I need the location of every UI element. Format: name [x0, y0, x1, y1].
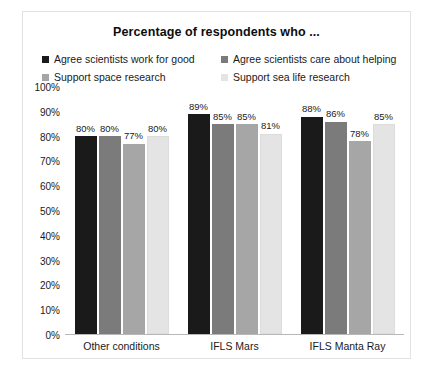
y-axis-tick-label: 100% [34, 82, 60, 93]
y-axis-tick-label: 90% [40, 106, 60, 117]
legend-item[interactable]: Agree scientists work for good [40, 50, 219, 68]
legend-swatch-icon [42, 74, 49, 81]
bar-slot: 89% [188, 87, 210, 334]
bar[interactable] [325, 122, 347, 334]
bar-value-label: 80% [100, 124, 119, 134]
bar-value-label: 86% [326, 109, 345, 119]
legend-swatch-icon [42, 56, 49, 63]
y-axis-tick-label: 50% [40, 206, 60, 217]
legend-item[interactable]: Agree scientists care about helping [219, 50, 398, 68]
bar[interactable] [123, 144, 145, 334]
plot-area: 80%80%77%80%89%85%85%81%88%86%78%85% [65, 87, 404, 335]
legend-swatch-icon [221, 56, 228, 63]
bar-slot: 86% [325, 87, 347, 334]
legend-swatch-icon [221, 74, 228, 81]
bar-value-label: 89% [189, 102, 208, 112]
legend-item[interactable]: Support sea life research [219, 68, 398, 86]
chart-legend: Agree scientists work for goodAgree scie… [40, 50, 398, 86]
bar-value-label: 85% [237, 112, 256, 122]
y-axis-tick-label: 80% [40, 131, 60, 142]
bar[interactable] [99, 136, 121, 334]
legend-item[interactable]: Support space research [40, 68, 219, 86]
y-axis-tick-label: 60% [40, 181, 60, 192]
bar-slot: 85% [236, 87, 258, 334]
legend-item-label: Support sea life research [233, 71, 350, 83]
x-axis-category-label: IFLS Mars [210, 340, 258, 352]
y-axis-tick-label: 40% [40, 230, 60, 241]
bar-group: 80%80%77%80% [65, 87, 178, 334]
y-axis: 0%10%20%30%40%50%60%70%80%90%100% [23, 87, 65, 335]
bar-slot: 85% [373, 87, 395, 334]
bar-slot: 80% [75, 87, 97, 334]
bar-chart-figure: Percentage of respondents who ... Agree … [0, 0, 433, 373]
bar-value-label: 85% [213, 112, 232, 122]
bar-slot: 81% [260, 87, 282, 334]
bar-slot: 85% [212, 87, 234, 334]
bar-slot: 78% [349, 87, 371, 334]
bar-group: 89%85%85%81% [178, 87, 291, 334]
bar-slot: 80% [147, 87, 169, 334]
bar-slot: 77% [123, 87, 145, 334]
bar[interactable] [236, 124, 258, 334]
chart-frame: Percentage of respondents who ... Agree … [22, 11, 411, 359]
x-axis: Other conditionsIFLS MarsIFLS Manta Ray [65, 336, 404, 358]
bar[interactable] [147, 136, 169, 334]
bar[interactable] [260, 134, 282, 334]
bar-slot: 88% [301, 87, 323, 334]
bar[interactable] [75, 136, 97, 334]
bar-value-label: 78% [350, 129, 369, 139]
y-axis-tick-label: 30% [40, 255, 60, 266]
plot-wrapper: 0%10%20%30%40%50%60%70%80%90%100% 80%80%… [23, 87, 412, 359]
y-axis-tick-label: 70% [40, 156, 60, 167]
bar-slot: 80% [99, 87, 121, 334]
bar[interactable] [301, 117, 323, 334]
bar-value-label: 80% [148, 124, 167, 134]
legend-item-label: Support space research [54, 71, 165, 83]
x-axis-category-label: IFLS Manta Ray [310, 340, 386, 352]
bar-value-label: 81% [261, 121, 280, 131]
bar-value-label: 80% [76, 124, 95, 134]
y-axis-tick-label: 0% [46, 330, 60, 341]
bar[interactable] [212, 124, 234, 334]
legend-item-label: Agree scientists care about helping [233, 53, 396, 65]
y-axis-tick-label: 20% [40, 280, 60, 291]
bar-value-label: 85% [374, 112, 393, 122]
chart-title: Percentage of respondents who ... [23, 25, 410, 39]
bar[interactable] [373, 124, 395, 334]
bar[interactable] [349, 141, 371, 334]
bar-group: 88%86%78%85% [291, 87, 404, 334]
x-axis-category-label: Other conditions [83, 340, 159, 352]
bar-value-label: 77% [124, 131, 143, 141]
y-axis-tick-label: 10% [40, 305, 60, 316]
bar-value-label: 88% [302, 104, 321, 114]
legend-item-label: Agree scientists work for good [54, 53, 195, 65]
bar[interactable] [188, 114, 210, 334]
